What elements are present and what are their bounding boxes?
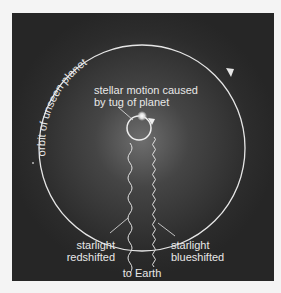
space-background xyxy=(12,13,274,281)
faint-star-dot xyxy=(32,162,34,164)
to-earth-label: to Earth xyxy=(123,267,162,279)
blueshift-label-line1: starlight xyxy=(171,239,210,251)
redshift-label-line1: starlight xyxy=(76,239,115,251)
stellar-motion-label-line1: stellar motion caused xyxy=(94,84,198,96)
blueshift-label-line2: blueshifted xyxy=(171,251,224,263)
stellar-motion-label-line2: by tug of planet xyxy=(94,96,169,108)
star-icon xyxy=(137,111,147,121)
redshift-label-line2: redshifted xyxy=(67,251,115,263)
radial-velocity-diagram: orbit of unseen planet stellar motion ca… xyxy=(0,0,281,293)
